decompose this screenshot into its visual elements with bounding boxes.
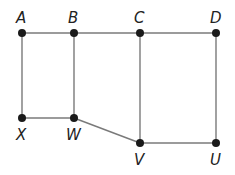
node-d <box>212 29 220 37</box>
label-c: C <box>134 9 145 27</box>
node-u <box>212 139 220 147</box>
node-c <box>136 29 144 37</box>
label-u: U <box>210 151 221 169</box>
label-a: A <box>15 9 26 27</box>
node-w <box>70 114 78 122</box>
node-x <box>18 114 26 122</box>
node-v <box>136 139 144 147</box>
node-a <box>18 29 26 37</box>
label-w: W <box>66 126 82 144</box>
label-v: V <box>134 151 146 169</box>
nodes <box>18 29 220 147</box>
label-d: D <box>210 9 222 27</box>
label-b: B <box>68 9 78 27</box>
edges <box>22 33 216 143</box>
edge-w-v <box>74 118 140 143</box>
node-b <box>70 29 78 37</box>
graph-diagram: A B C D X W V U <box>0 0 235 175</box>
label-x: X <box>15 126 27 144</box>
